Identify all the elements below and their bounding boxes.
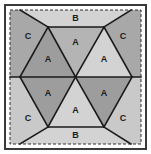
tessellation-canvas: AAAAAABBCCCC <box>0 0 151 154</box>
tessellation-figure: AAAAAABBCCCC <box>0 0 151 154</box>
